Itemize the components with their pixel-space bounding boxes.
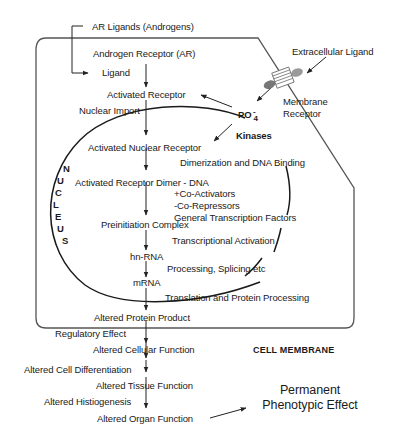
label-membrane-receptor-2: Receptor [283,108,321,119]
nucleus-letter: N [63,164,70,174]
label-altered-tissue-function: Altered Tissue Function [96,380,193,391]
label-receptor-dimer: Activated Receptor Dimer - DNA [75,177,209,188]
label-nuclear-import: Nuclear Import [79,105,140,116]
label-altered-cellular: Altered Cellular Function [93,344,195,355]
membrane-receptor-icon [260,63,305,92]
nucleus-letter: U [57,224,64,234]
nucleus-letter: E [55,212,61,222]
label-kinases: Kinases [236,130,272,141]
label-altered-protein: Altered Protein Product [94,312,190,323]
nucleus-letter: U [57,176,64,186]
nucleus-letter: S [62,236,68,246]
nucleus-letter: C [55,188,62,198]
label-co-repressors: -Co-Repressors [174,200,240,211]
label-po4: PO4- [238,109,260,121]
label-extracellular-ligand: Extracellular Ligand [292,46,373,57]
label-ligand: Ligand [102,67,130,78]
label-cell-membrane: CELL MEMBRANE [253,345,334,356]
label-mrna: mRNA [133,277,161,288]
nucleus-letter: L [53,200,59,210]
label-altered-organ-function: Altered Organ Function [97,413,193,424]
label-preinitiation-complex: Preinitiation Complex [101,219,189,230]
label-permanent-phenotypic-effect: Permanent Phenotypic Effect [248,383,372,413]
label-processing-splicing: Processing, Splicing etc [167,263,265,274]
label-activated-receptor: Activated Receptor [107,89,185,100]
label-altered-histiogenesis: Altered Histiogenesis [44,396,131,407]
label-ar-ligands: AR Ligands (Androgens) [92,21,194,32]
label-dimerization: Dimerization and DNA Binding [180,157,305,168]
label-co-activators: +Co-Activators [174,188,235,199]
label-regulatory-effect: Regulatory Effect [55,328,126,339]
label-androgen-receptor: Androgen Receptor (AR) [93,48,195,59]
label-general-transcription-factors: General Transcription Factors [174,212,296,223]
label-membrane-receptor-1: Membrane [283,96,328,107]
diagram-canvas: AR Ligands (Androgens) Extracellular Lig… [0,0,402,448]
label-transcriptional-activation: Transcriptional Activation [172,235,275,246]
label-translation: Translation and Protein Processing [165,292,309,303]
label-activated-nuclear-receptor: Activated Nuclear Receptor [88,142,201,153]
label-hnrna: hn-RNA [130,251,163,262]
label-altered-cell-differentiation: Altered Cell Differentiation [24,364,131,375]
